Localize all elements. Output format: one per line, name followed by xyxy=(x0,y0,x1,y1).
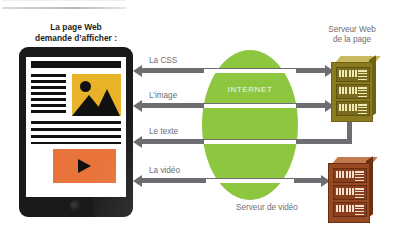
server-slot-cells xyxy=(339,87,357,94)
connector-image-right xyxy=(296,103,326,108)
connector-image-cutout xyxy=(202,104,300,108)
server-slot xyxy=(333,168,367,183)
video-server-icon xyxy=(326,157,376,223)
server-slot xyxy=(333,202,367,217)
web-server-label-line2: de la page xyxy=(308,35,396,46)
connector-css-left xyxy=(142,68,204,73)
diagram-canvas: La page Web demande d’afficher : Serveur… xyxy=(0,0,401,247)
connector-text-right xyxy=(296,139,352,144)
connector-video-left xyxy=(142,178,206,183)
web-server-label-line1: Serveur Web xyxy=(308,25,396,36)
server-slot-bars xyxy=(358,87,367,97)
arrowhead-css-to-device xyxy=(133,65,142,77)
text-line xyxy=(31,98,66,101)
connector-text-cutout xyxy=(202,140,300,144)
connector-css-right xyxy=(296,68,326,73)
server-slot-bars xyxy=(355,205,364,215)
text-line xyxy=(31,92,66,95)
connector-text-left xyxy=(142,139,204,144)
text-line xyxy=(31,104,66,107)
top-divider-thin xyxy=(2,0,126,1)
home-button[interactable] xyxy=(70,200,83,213)
flow-label-css: La CSS xyxy=(149,56,177,65)
text-line xyxy=(31,110,66,113)
flow-label-video: La vidéo xyxy=(149,166,180,175)
text-line xyxy=(31,74,66,77)
connector-image-left xyxy=(142,103,204,108)
server-front-face xyxy=(328,163,370,223)
connector-css-cutout xyxy=(202,69,300,73)
arrowhead-text-to-device xyxy=(133,136,142,148)
top-divider xyxy=(2,7,126,9)
arrowhead-video-to-device xyxy=(133,175,142,187)
sun-circle-icon xyxy=(80,81,91,92)
server-slot-cells xyxy=(336,205,354,212)
flow-label-image: L’image xyxy=(149,91,177,100)
server-front-face xyxy=(331,62,373,122)
connector-video-cutout xyxy=(205,179,297,183)
server-slot-cells xyxy=(336,171,354,178)
connector-text-riser xyxy=(347,122,352,142)
web-server-icon xyxy=(329,56,379,122)
page-title-line2: demande d’afficher : xyxy=(10,33,142,44)
server-slot xyxy=(336,101,370,116)
arrowhead-image-to-device xyxy=(133,100,142,112)
page-title-line1: La page Web xyxy=(16,22,136,33)
connector-video-right xyxy=(294,178,322,183)
server-slot-cells xyxy=(339,70,357,77)
flow-label-text: Le texte xyxy=(149,127,178,136)
server-slot-bars xyxy=(358,104,367,114)
play-icon xyxy=(78,159,91,173)
internet-label: INTERNET xyxy=(202,85,298,94)
server-slot-cells xyxy=(339,104,357,111)
server-slot-bars xyxy=(355,188,364,198)
text-line xyxy=(31,86,66,89)
tablet-device xyxy=(19,47,133,217)
text-line xyxy=(31,80,66,83)
video-server-label: Serveur de vidéo xyxy=(236,203,336,214)
server-slot-cells xyxy=(336,188,354,195)
screen-glare xyxy=(93,47,133,217)
server-slot xyxy=(333,185,367,200)
server-slot xyxy=(336,67,370,82)
server-slot-bars xyxy=(355,171,364,181)
server-slot-bars xyxy=(358,70,367,80)
server-slot xyxy=(336,84,370,99)
